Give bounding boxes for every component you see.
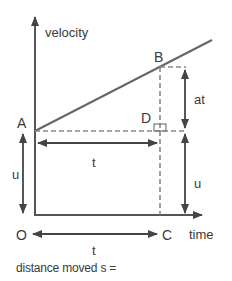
- u-left-label: u: [12, 168, 19, 181]
- caption: distance moved s =: [16, 261, 116, 275]
- point-label-b: B: [154, 50, 163, 64]
- point-label-a: A: [17, 116, 26, 130]
- point-label-d: D: [141, 111, 151, 125]
- t-upper-label: t: [92, 156, 96, 169]
- y-axis-label: velocity: [45, 26, 88, 39]
- x-axis-label: time: [189, 228, 214, 241]
- point-label-c: C: [162, 228, 172, 242]
- at-label: at: [194, 93, 205, 106]
- point-label-o: O: [16, 228, 27, 242]
- u-right-label: u: [194, 177, 201, 190]
- t-lower-label: t: [92, 244, 96, 257]
